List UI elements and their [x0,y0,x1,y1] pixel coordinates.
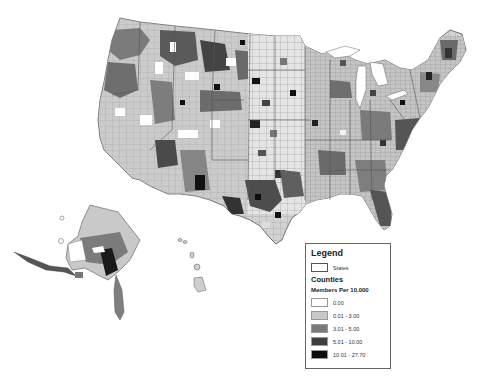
states-swatch [311,263,328,272]
swatch-1 [311,311,328,320]
swatch-0 [311,298,328,307]
class-label-1: 0.01 - 3.00 [333,313,359,319]
legend-class-3: 5.01 - 10.00 [311,336,385,347]
swatch-4 [311,350,328,359]
class-label-4: 10.01 - 27.70 [333,352,365,358]
legend-class-0: 0.00 [311,297,385,308]
map-legend: Legend States Counties Members Per 10,00… [305,243,391,369]
states-label: States [333,265,349,271]
class-label-0: 0.00 [333,300,344,306]
contiguous-us [98,15,466,244]
counties-heading: Counties [311,275,385,285]
alaska [14,205,140,320]
legend-row-states: States [311,262,385,273]
swatch-2 [311,324,328,333]
legend-title: Legend [311,248,385,259]
legend-class-1: 0.01 - 3.00 [311,310,385,321]
choropleth-map [0,0,499,378]
swatch-3 [311,337,328,346]
class-label-3: 5.01 - 10.00 [333,339,362,345]
legend-class-4: 10.01 - 27.70 [311,349,385,360]
measure-heading: Members Per 10,000 [311,286,385,295]
legend-class-2: 3.01 - 5.00 [311,323,385,334]
class-label-2: 3.01 - 5.00 [333,326,359,332]
hawaii [178,239,206,293]
